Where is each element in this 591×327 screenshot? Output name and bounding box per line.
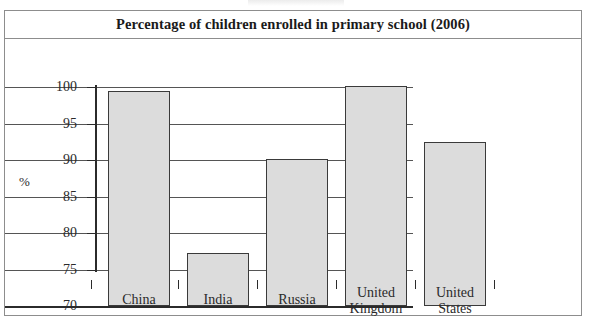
y-tick-label-85: 85 [37, 190, 77, 204]
y-tick-100 [87, 87, 96, 88]
figure-container: Percentage of children enrolled in prima… [4, 10, 582, 316]
x-label-uk-line2: Kingdom [350, 301, 403, 316]
y-axis-title: % [19, 174, 30, 190]
y-tick-label-70: 70 [37, 299, 77, 313]
bar-china[interactable] [108, 91, 170, 306]
y-tick-95 [87, 124, 96, 125]
scan-artifact [248, 0, 344, 6]
y-tick-label-95: 95 [37, 117, 77, 131]
y-tick-75 [87, 270, 96, 271]
title-band: Percentage of children enrolled in prima… [5, 11, 581, 39]
y-tick-90 [87, 160, 96, 161]
y-axis-line [95, 85, 97, 272]
y-tick-85 [87, 197, 96, 198]
bar-russia[interactable] [266, 159, 328, 307]
x-label-china-line1: China [122, 292, 155, 307]
bar-united-states[interactable] [424, 142, 486, 306]
chart-title: Percentage of children enrolled in prima… [116, 16, 470, 33]
y-tick-80 [87, 233, 96, 234]
x-label-us-line2: States [438, 301, 471, 316]
x-label-uk-line1: United [357, 285, 395, 300]
x-tick-1 [178, 280, 179, 289]
y-tick-label-100: 100 [37, 80, 77, 94]
x-label-us-line1: United [436, 285, 474, 300]
y-tick-label-90: 90 [37, 153, 77, 167]
x-label-russia-line1: Russia [278, 292, 315, 307]
y-tick-label-80: 80 [37, 226, 77, 240]
bar-united-kingdom[interactable] [345, 86, 407, 307]
x-label-india-line1: India [204, 292, 233, 307]
y-tick-label-75: 75 [37, 263, 77, 277]
x-tick-2 [257, 280, 258, 289]
x-tick-0 [91, 280, 92, 289]
x-label-united-states: United States [407, 285, 503, 316]
